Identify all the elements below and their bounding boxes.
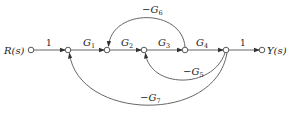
gain-g3: G3 — [158, 37, 170, 50]
node-6 — [223, 47, 229, 53]
gain-g2: G2 — [121, 37, 133, 50]
gain-g6: −G6 — [142, 4, 163, 17]
node-output — [259, 47, 265, 53]
gain-g7: −G7 — [140, 92, 161, 105]
node-input — [28, 47, 34, 53]
input-label: R(s) — [3, 45, 25, 56]
gain-input-1: 1 — [46, 38, 52, 48]
gain-g4: G4 — [196, 37, 208, 50]
output-label: Y(s) — [267, 45, 287, 56]
node-3 — [104, 47, 110, 53]
node-4 — [141, 47, 147, 53]
signal-flow-graph: R(s) Y(s) 1 1 G1 G2 G3 G4 −G6 −G5 −G7 — [0, 0, 288, 120]
node-5 — [182, 47, 188, 53]
node-2 — [65, 47, 71, 53]
branch-g6-feedback — [109, 18, 186, 47]
gain-g1: G1 — [83, 37, 95, 50]
gain-g5: −G5 — [183, 66, 204, 79]
gain-output-1: 1 — [240, 38, 246, 48]
